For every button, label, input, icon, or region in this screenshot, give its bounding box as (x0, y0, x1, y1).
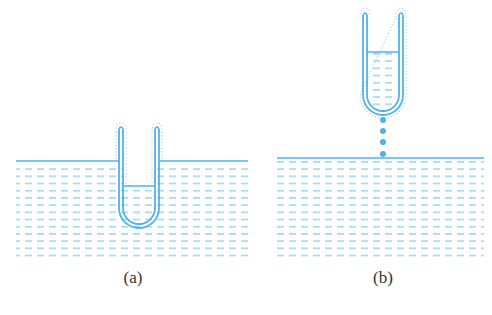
bath-liquid-b (277, 160, 484, 259)
falling-drops (380, 117, 386, 157)
tube-liquid-b (369, 52, 397, 112)
panel-b (277, 8, 484, 259)
panel-b-label: (b) (373, 268, 393, 288)
panel-a-label: (a) (124, 268, 143, 288)
panel-a (16, 123, 248, 259)
diagram-canvas (0, 0, 492, 315)
